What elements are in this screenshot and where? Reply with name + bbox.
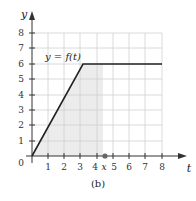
x-tick-8: 8 [159, 162, 165, 172]
y-axis-arrow-icon [29, 11, 35, 20]
y-tick-8: 8 [18, 28, 24, 38]
x-tick-2: 2 [61, 162, 67, 172]
y-tick-1: 1 [18, 136, 24, 146]
x-marker-label: x [101, 162, 106, 172]
chart: 1 2 3 4 5 6 7 8 x 1 2 3 4 5 6 7 8 0 y t … [0, 0, 196, 201]
x-axis-arrow-icon [178, 153, 187, 159]
y-tick-3: 3 [18, 105, 24, 115]
figure-caption: (b) [91, 178, 105, 189]
function-label: y = f(t) [44, 51, 81, 62]
origin-label: 0 [18, 158, 24, 168]
x-tick-3: 3 [77, 162, 83, 172]
y-tick-4: 4 [18, 90, 24, 100]
y-axis-label: y [20, 8, 28, 21]
x-tick-1: 1 [45, 162, 51, 172]
x-tick-6: 6 [126, 162, 132, 172]
y-tick-2: 2 [18, 120, 24, 130]
x-tick-7: 7 [142, 162, 148, 172]
x-tick-4: 4 [92, 162, 98, 172]
y-tick-7: 7 [18, 43, 24, 53]
x-tick-5: 5 [111, 162, 117, 172]
x-axis-label: t [187, 162, 192, 175]
y-tick-5: 5 [18, 74, 24, 84]
x-marker-dot [102, 153, 107, 158]
y-tick-6: 6 [18, 59, 24, 69]
